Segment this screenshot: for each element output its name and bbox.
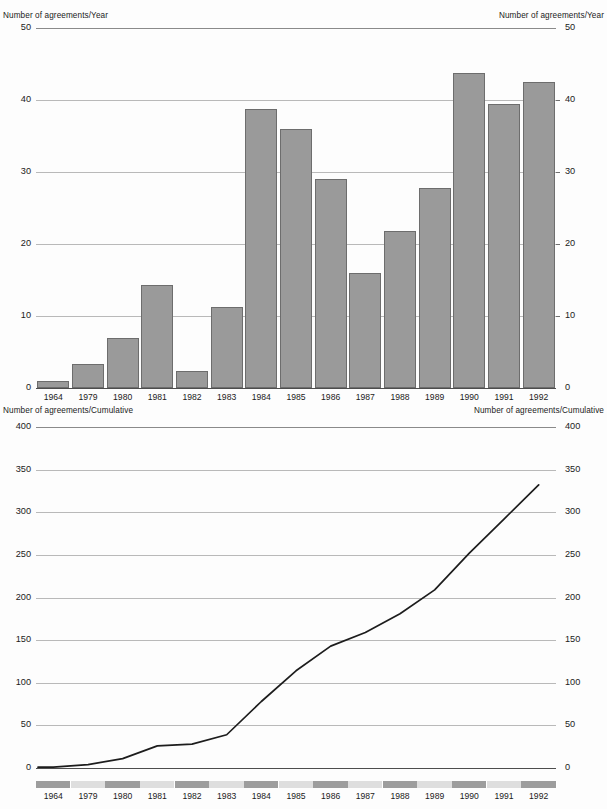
bar-column: [384, 231, 416, 388]
bar-ytick-left-50: 50: [3, 22, 31, 32]
bar-column: [315, 179, 347, 388]
bar-column: [349, 273, 381, 388]
bar-ytick-right-50: 50: [565, 22, 595, 32]
bar-ytick-right-20: 20: [565, 238, 595, 248]
bar-column: [141, 285, 173, 388]
bar-ytick-left-30: 30: [3, 166, 31, 176]
bar-ytick-left-0: 0: [3, 382, 31, 392]
bar-tickmark-40: [556, 100, 560, 101]
bar-ytick-left-20: 20: [3, 238, 31, 248]
bar-column: [419, 188, 451, 388]
bar-ytick-left-10: 10: [3, 310, 31, 320]
figure-root: Number of agreements/Year Number of agre…: [0, 0, 607, 809]
bar-tickmark-20: [556, 244, 560, 245]
bar-column: [245, 109, 277, 388]
bar-column: [488, 104, 520, 388]
bar-gridline-50: [36, 28, 556, 29]
bar-ytick-right-30: 30: [565, 166, 595, 176]
cumulative-line-series: [0, 400, 607, 809]
bar-column: [37, 381, 69, 388]
bar-tickmark-10: [556, 316, 560, 317]
bar-column: [453, 73, 485, 388]
bar-column: [280, 129, 312, 388]
bar-column: [107, 338, 139, 388]
bar-column: [523, 82, 555, 388]
line-chart-plot: 4004003503503003002502502002001501501001…: [0, 400, 607, 809]
bar-ytick-left-40: 40: [3, 94, 31, 104]
top-crop-edge: [0, 0, 607, 7]
bar-column: [211, 307, 243, 388]
bar-column: [72, 364, 104, 388]
bar-tickmark-30: [556, 172, 560, 173]
bar-gridline-0: [36, 388, 556, 389]
bar-ytick-right-40: 40: [565, 94, 595, 104]
bar-ytick-right-0: 0: [565, 382, 595, 392]
bar-chart-plot: 5050404030302020101000196419791980198119…: [0, 0, 607, 400]
bar-column: [176, 371, 208, 388]
bar-ytick-right-10: 10: [565, 310, 595, 320]
